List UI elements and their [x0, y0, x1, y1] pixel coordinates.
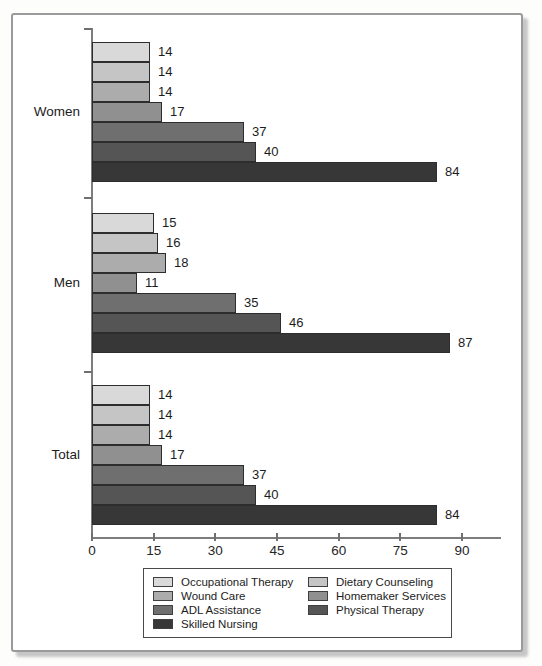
- bar-value-label: 37: [252, 124, 266, 140]
- bar-value-label: 14: [158, 44, 172, 60]
- y-axis-group-tick: [84, 197, 92, 199]
- y-axis-group-tick: [84, 371, 92, 373]
- x-tick-label: 45: [260, 543, 294, 559]
- bar: [92, 42, 150, 62]
- bar-value-label: 37: [252, 467, 266, 483]
- bar-value-label: 40: [264, 144, 278, 160]
- bar-value-label: 14: [158, 407, 172, 423]
- legend-item: ADL Assistance: [153, 603, 308, 617]
- bar: [92, 273, 137, 293]
- bar: [92, 142, 256, 162]
- legend-label: Physical Therapy: [336, 604, 424, 617]
- legend-item: Homemaker Services: [308, 589, 451, 603]
- bar: [92, 62, 150, 82]
- legend-label: Occupational Therapy: [181, 576, 293, 589]
- category-label: Total: [8, 446, 80, 463]
- legend-item: Skilled Nursing: [153, 617, 308, 631]
- legend-label: Homemaker Services: [336, 590, 446, 603]
- bar-value-label: 84: [445, 164, 459, 180]
- x-tick-label: 60: [322, 543, 356, 559]
- legend-item: Wound Care: [153, 589, 308, 603]
- bar-value-label: 11: [145, 275, 159, 291]
- bar: [92, 293, 236, 313]
- bar: [92, 213, 154, 233]
- bar: [92, 485, 256, 505]
- legend-item: Physical Therapy: [308, 603, 451, 617]
- bar-value-label: 17: [170, 447, 184, 463]
- legend-swatch-icon: [308, 591, 328, 601]
- bar-value-label: 35: [244, 295, 258, 311]
- x-tick: [214, 533, 216, 541]
- scanned-figure-page: Women14141417374084Men15161811354687Tota…: [0, 0, 542, 666]
- bar-value-label: 14: [158, 64, 172, 80]
- bar: [92, 313, 281, 333]
- bar-value-label: 46: [289, 315, 303, 331]
- legend-swatch-icon: [153, 605, 173, 615]
- legend-label: ADL Assistance: [181, 604, 261, 617]
- x-tick-label: 0: [75, 543, 109, 559]
- bar-value-label: 17: [170, 104, 184, 120]
- x-tick: [276, 533, 278, 541]
- x-tick: [338, 533, 340, 541]
- legend-label: Skilled Nursing: [181, 618, 258, 631]
- legend-swatch-icon: [308, 577, 328, 587]
- x-tick: [91, 533, 93, 541]
- legend-item: Dietary Counseling: [308, 575, 451, 589]
- bar-value-label: 14: [158, 387, 172, 403]
- bar-value-label: 40: [264, 487, 278, 503]
- bar: [92, 385, 150, 405]
- bar: [92, 102, 162, 122]
- bar: [92, 82, 150, 102]
- bar: [92, 425, 150, 445]
- bar-value-label: 14: [158, 84, 172, 100]
- legend-swatch-icon: [308, 605, 328, 615]
- legend-swatch-icon: [153, 591, 173, 601]
- bar-value-label: 18: [174, 255, 188, 271]
- legend-swatch-icon: [153, 619, 173, 629]
- x-tick: [153, 533, 155, 541]
- legend-label: Wound Care: [181, 590, 245, 603]
- legend-swatch-icon: [153, 577, 173, 587]
- bar-value-label: 84: [445, 507, 459, 523]
- category-label: Women: [8, 103, 80, 120]
- x-tick-label: 90: [445, 543, 479, 559]
- bar: [92, 162, 437, 182]
- y-axis-group-tick: [84, 28, 92, 30]
- bar: [92, 253, 166, 273]
- x-tick: [461, 533, 463, 541]
- x-tick: [399, 533, 401, 541]
- category-label: Men: [8, 274, 80, 291]
- bar-value-label: 14: [158, 427, 172, 443]
- legend-label: Dietary Counseling: [336, 576, 433, 589]
- x-tick-label: 15: [137, 543, 171, 559]
- bar: [92, 333, 450, 353]
- bar: [92, 122, 244, 142]
- bar-value-label: 16: [166, 235, 180, 251]
- bar: [92, 233, 158, 253]
- x-tick-label: 30: [198, 543, 232, 559]
- x-tick-label: 75: [383, 543, 417, 559]
- bar: [92, 465, 244, 485]
- bar: [92, 405, 150, 425]
- legend-box: Occupational TherapyDietary CounselingWo…: [143, 568, 452, 638]
- bar-value-label: 15: [162, 215, 176, 231]
- legend-item: Occupational Therapy: [153, 575, 308, 589]
- bar: [92, 445, 162, 465]
- bar: [92, 505, 437, 525]
- bar-value-label: 87: [458, 335, 472, 351]
